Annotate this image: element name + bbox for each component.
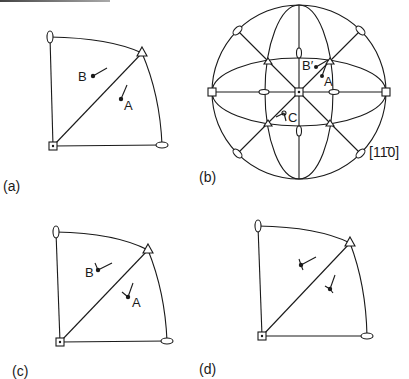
- panel-d-triangle: [255, 220, 373, 340]
- twofold-ellipse-icon: [47, 31, 53, 43]
- panel-c-triangle: [53, 226, 173, 346]
- twofold-ellipse-icon: [156, 142, 168, 148]
- crystallographic-figure: [0, 0, 409, 379]
- point-label-b: B: [78, 70, 87, 83]
- point-label-a: A: [132, 296, 141, 309]
- twofold-ellipse-icon: [329, 90, 339, 95]
- direction-label: [11̄0]: [369, 145, 399, 159]
- panel-label-a: (a): [3, 179, 20, 193]
- point-label-a: A: [124, 99, 133, 112]
- twofold-ellipse-icon: [161, 338, 173, 344]
- twofold-ellipse-icon: [297, 48, 302, 58]
- point-label-b-prime: B′: [302, 59, 313, 72]
- twofold-ellipse-icon: [53, 226, 59, 238]
- fourfold-square-icon: [208, 88, 216, 96]
- twofold-ellipse-icon: [361, 333, 373, 339]
- fourfold-square-icon: [382, 88, 390, 96]
- point-label-b: B: [85, 266, 94, 279]
- panel-b-stereogram: [208, 5, 390, 179]
- twofold-ellipse-icon: [259, 90, 269, 95]
- panel-label-b: (b): [199, 170, 216, 184]
- panel-a-triangle: [47, 31, 168, 150]
- point-label-a: A: [324, 75, 333, 88]
- twofold-ellipse-icon: [297, 126, 302, 136]
- panel-label-c: (c): [12, 364, 28, 378]
- twofold-ellipse-icon: [255, 220, 261, 232]
- panel-label-d: (d): [199, 362, 216, 376]
- point-label-c: C: [288, 111, 297, 124]
